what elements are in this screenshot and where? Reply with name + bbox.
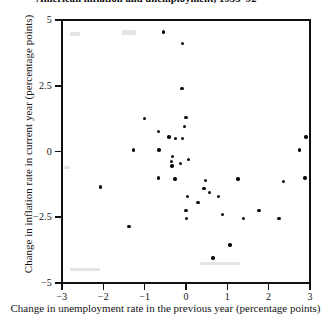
data-point: [132, 148, 135, 151]
x-axis-tick: [309, 283, 311, 290]
scan-speckle: [200, 262, 240, 265]
data-point: [174, 137, 177, 140]
x-axis-tick: [268, 283, 270, 290]
y-axis-label: Change in inflation rate in current year…: [22, 10, 34, 278]
data-point: [304, 135, 307, 138]
y-axis-tick: [55, 216, 62, 218]
y-axis-tick-label: −2.5: [18, 212, 52, 222]
scan-speckle: [64, 166, 70, 169]
data-point: [211, 256, 214, 259]
x-axis-tick-label: 2: [254, 291, 284, 302]
data-point: [162, 30, 165, 33]
data-point: [157, 148, 160, 151]
data-point: [228, 243, 231, 246]
data-point: [157, 176, 160, 179]
y-axis-tick: [55, 19, 62, 21]
data-point: [127, 225, 130, 228]
data-point: [99, 185, 102, 188]
scan-speckle: [70, 32, 80, 36]
y-axis-tick-label: −5: [18, 278, 52, 288]
x-axis-tick: [61, 283, 63, 290]
x-axis-tick: [185, 283, 187, 290]
y-axis-tick: [55, 85, 62, 87]
scatter-chart-figure: American inflation and unemployment, 195…: [0, 0, 331, 319]
y-axis-tick-label: 0: [18, 147, 52, 157]
data-point: [184, 116, 187, 119]
x-axis-tick-label: −2: [88, 291, 118, 302]
data-point: [303, 176, 306, 179]
x-axis-tick-label: 3: [295, 291, 325, 302]
x-axis-tick: [144, 283, 146, 290]
data-point: [167, 135, 170, 138]
data-point: [180, 87, 183, 90]
x-axis-tick-label: 1: [212, 291, 242, 302]
data-point: [236, 177, 239, 180]
data-point: [202, 187, 205, 190]
x-axis-tick-label: 0: [171, 291, 201, 302]
data-point: [170, 164, 173, 167]
data-point: [277, 217, 280, 220]
x-axis-tick-label: −3: [47, 291, 77, 302]
plot-area: [62, 20, 310, 283]
data-point: [173, 177, 176, 180]
x-axis-label: Change in unemployment rate in the previ…: [0, 302, 331, 314]
scan-speckle: [70, 268, 100, 271]
scan-speckle: [122, 30, 136, 35]
x-axis-tick: [103, 283, 105, 290]
chart-title: American inflation and unemployment, 195…: [36, 0, 306, 5]
data-point: [186, 195, 189, 198]
y-axis-tick: [55, 151, 62, 153]
y-axis-tick-label: 5: [18, 15, 52, 25]
y-axis-tick-label: 2.5: [18, 81, 52, 91]
x-axis-tick-label: −1: [130, 291, 160, 302]
x-axis-tick: [227, 283, 229, 290]
